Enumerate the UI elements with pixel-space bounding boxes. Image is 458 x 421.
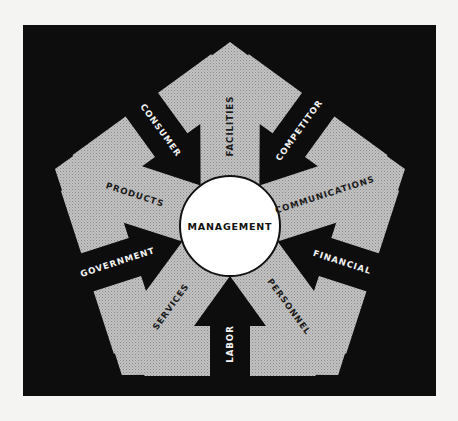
outflow-label-facilities: FACILITIES <box>225 96 235 157</box>
center-label: MANAGEMENT <box>188 221 273 232</box>
management-diagram: MANAGEMENT FACILITIESCOMMUNICATIONSPERSO… <box>0 0 458 421</box>
inflow-label-labor: LABOR <box>225 325 235 363</box>
